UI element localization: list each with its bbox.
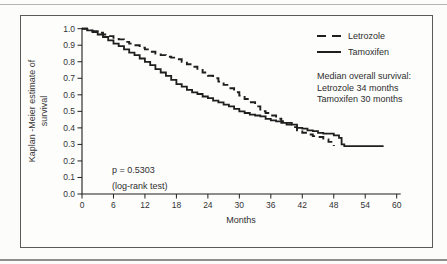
y-tick-label: 0.2 bbox=[63, 156, 75, 166]
page-bottom-rule bbox=[0, 259, 447, 261]
median-tamoxifen: Tamoxifen 30 months bbox=[317, 94, 411, 106]
y-tick-label: 0.5 bbox=[63, 106, 75, 116]
x-tick-label: 54 bbox=[360, 200, 370, 210]
x-tick-label: 6 bbox=[111, 200, 116, 210]
legend-label-tamoxifen: Tamoxifen bbox=[348, 47, 389, 57]
median-letrozole: Letrozole 34 months bbox=[317, 83, 411, 95]
x-tick-label: 60 bbox=[392, 200, 402, 210]
p-value-annotation: p = 0.5303 (log-rank test) bbox=[112, 162, 168, 194]
page-top-rule bbox=[0, 4, 447, 5]
x-tick-label: 12 bbox=[140, 200, 150, 210]
median-survival-annotation: Median overall survival: Letrozole 34 mo… bbox=[317, 71, 411, 106]
y-axis-label-line2: survival bbox=[38, 41, 50, 181]
dash-segment bbox=[332, 35, 341, 37]
y-tick-label: 0.9 bbox=[63, 40, 75, 50]
tamoxifen-solid-line-sample bbox=[317, 51, 341, 53]
x-tick-label: 24 bbox=[203, 200, 213, 210]
y-tick-label: 0.6 bbox=[63, 90, 75, 100]
y-tick-label: 0.0 bbox=[63, 189, 75, 199]
x-tick-label: 42 bbox=[298, 200, 308, 210]
x-tick-label: 18 bbox=[172, 200, 182, 210]
legend: Letrozole Tamoxifen bbox=[317, 28, 389, 60]
median-title: Median overall survival: bbox=[317, 71, 411, 83]
legend-item-tamoxifen: Tamoxifen bbox=[317, 44, 389, 60]
y-tick-label: 0.8 bbox=[63, 57, 75, 67]
x-tick-label: 0 bbox=[80, 200, 85, 210]
y-tick-label: 0.7 bbox=[63, 73, 75, 83]
y-axis-label: Kaplan -Meier estimate of survival bbox=[26, 41, 50, 181]
y-tick-label: 1.0 bbox=[63, 24, 75, 34]
legend-label-letrozole: Letrozole bbox=[348, 31, 385, 41]
letrozole-dashed-line-sample bbox=[317, 35, 341, 37]
x-tick-label: 48 bbox=[329, 200, 339, 210]
x-tick-label: 36 bbox=[266, 200, 276, 210]
p-value-text: p = 0.5303 bbox=[112, 162, 168, 178]
x-axis-label: Months bbox=[181, 215, 301, 225]
solid-segment bbox=[317, 51, 341, 53]
kaplan-meier-figure: 1.00.90.80.70.60.50.40.30.20.10.00612182… bbox=[20, 15, 433, 248]
legend-item-letrozole: Letrozole bbox=[317, 28, 389, 44]
x-tick-label: 30 bbox=[235, 200, 245, 210]
log-rank-test-text: (log-rank test) bbox=[112, 178, 168, 194]
y-tick-label: 0.3 bbox=[63, 139, 75, 149]
dash-segment bbox=[317, 35, 326, 37]
y-tick-label: 0.1 bbox=[63, 172, 75, 182]
y-tick-label: 0.4 bbox=[63, 123, 75, 133]
y-axis-label-line1: Kaplan -Meier estimate of bbox=[26, 41, 38, 181]
